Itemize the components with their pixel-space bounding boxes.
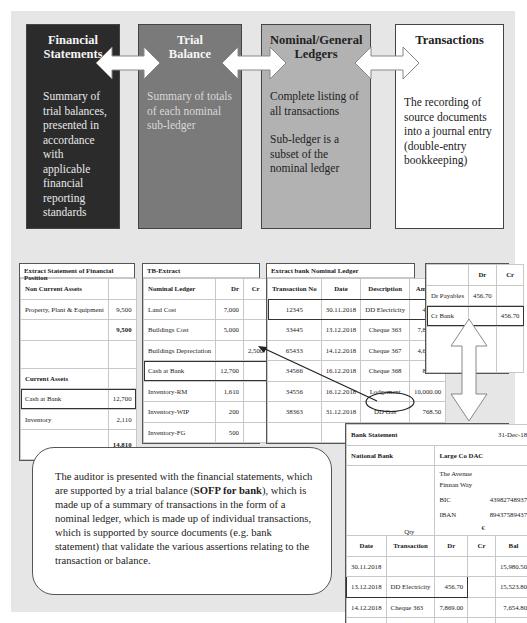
column-header: Cr — [243, 279, 267, 300]
table-row: Buildings Depreciation2,500 — [144, 340, 268, 361]
section-header: Current Assets — [21, 368, 109, 389]
double-arrow-icon — [354, 44, 420, 82]
table-row: 30.11.201815,980.50 — [347, 556, 527, 577]
column-header: Description — [361, 279, 410, 300]
bank-statement: Bank Statement31-Dec-18 National BankLar… — [345, 423, 509, 623]
box-description: The recording of source documents into a… — [404, 95, 495, 168]
column-header: Dr — [435, 536, 468, 557]
box-description: Summary of totals of each nominal sub-le… — [147, 89, 233, 133]
table-row: Inventory-RM1,610 — [144, 381, 268, 402]
column-header: Cr — [468, 536, 496, 557]
explanation-note: The auditor is presented with the financ… — [32, 447, 332, 595]
column-header: Transaction — [386, 536, 435, 557]
row-label: Cash at Bank — [21, 389, 109, 410]
subtotal-circle — [364, 391, 416, 413]
vertical-double-arrow-icon — [449, 318, 489, 422]
table-row: Land Cost7,000 — [144, 299, 268, 320]
currency-symbol: € — [439, 522, 527, 533]
company-name: Large Co DAC — [435, 445, 527, 466]
table-row: Inventory-FG500 — [144, 422, 268, 443]
column-header: Date — [321, 279, 361, 300]
double-arrow-icon — [221, 44, 287, 82]
company-address: The Avenue Finnan Way BIC43982748937 IBA… — [435, 466, 527, 536]
table-row: Inventory-WIP200 — [144, 402, 268, 423]
sofp-extract-table: Extract Statement of Financial Position … — [19, 263, 135, 461]
table-row: Dr Payables456.70 — [427, 285, 524, 306]
table-row-highlighted: 1234530.11.2018DD Electricity456.70 — [268, 299, 446, 320]
row-value: 2,110 — [108, 409, 136, 430]
column-header: Date — [347, 536, 387, 557]
section-header: Non Current Assets — [21, 279, 109, 300]
box-description: Summary of trial balances, presented in … — [43, 89, 111, 220]
row-value: 12,700 — [108, 389, 136, 410]
row-label: Property, Plant & Equipment — [21, 299, 109, 320]
column-header: Dr — [216, 279, 244, 300]
column-header: Cr — [496, 265, 524, 286]
table-title: Extract bank Nominal Ledger — [267, 264, 414, 278]
box-description: Complete listing of all transactions — [270, 89, 362, 118]
table-row: 14.12.2018Cheque 3637,869.007,654.80 — [347, 597, 527, 618]
column-header: Transaction No — [268, 279, 322, 300]
tb-extract-table: TB-Extract Nominal LedgerDrCr Land Cost7… — [142, 263, 260, 444]
bank-name: National Bank — [347, 445, 435, 466]
statement-title: Bank Statement — [347, 425, 468, 446]
row-value: 9,500 — [108, 299, 136, 320]
double-arrow-icon — [95, 44, 161, 82]
column-header: Nominal Ledger — [144, 279, 216, 300]
box-description-2: Sub-ledger is a subset of the nominal le… — [270, 132, 362, 176]
table-title: Extract Statement of Financial Position — [20, 264, 134, 278]
row-label: Inventory — [21, 409, 109, 430]
table-row-highlighted: Cash at Bank12,700 — [144, 361, 268, 382]
table-row: Buildings Cost5,000 — [144, 320, 268, 341]
statement-date: 31-Dec-18 — [468, 425, 527, 446]
table-title: TB-Extract — [143, 264, 259, 278]
table-row-highlighted: 13.12.2018DD Electricity456.7015,523.80 — [347, 577, 527, 598]
qty-label: Qty — [404, 528, 414, 535]
subtotal-value: 9,500 — [108, 320, 136, 341]
column-header: Dr — [469, 265, 497, 286]
table-row: 16.12.2018Lodgement10,00017,654.80 — [347, 618, 527, 623]
table-row: 3344513.12.2018Cheque 3637,869.00 — [268, 320, 446, 341]
column-header: Bal — [495, 536, 527, 557]
note-emphasis: SOFP for bank — [194, 485, 262, 496]
